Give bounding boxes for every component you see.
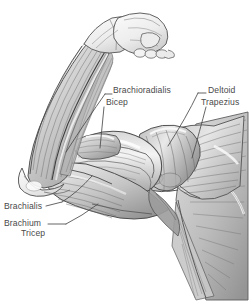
fist	[84, 13, 174, 59]
label-bicep: Bicep	[106, 97, 128, 107]
anatomy-figure: Brachioradialis Bicep Deltoid Trapezius …	[0, 0, 250, 306]
label-trapezius: Trapezius	[201, 97, 239, 107]
label-brachioradialis: Brachioradialis	[113, 85, 171, 95]
label-deltoid: Deltoid	[208, 85, 235, 95]
anatomy-illustration	[0, 0, 250, 306]
label-tricep: Tricep	[21, 228, 45, 238]
label-brachialis: Brachialis	[4, 201, 42, 211]
brachialis-leader	[46, 202, 62, 206]
fingers	[134, 49, 174, 59]
label-brachium: Brachium	[4, 218, 41, 228]
